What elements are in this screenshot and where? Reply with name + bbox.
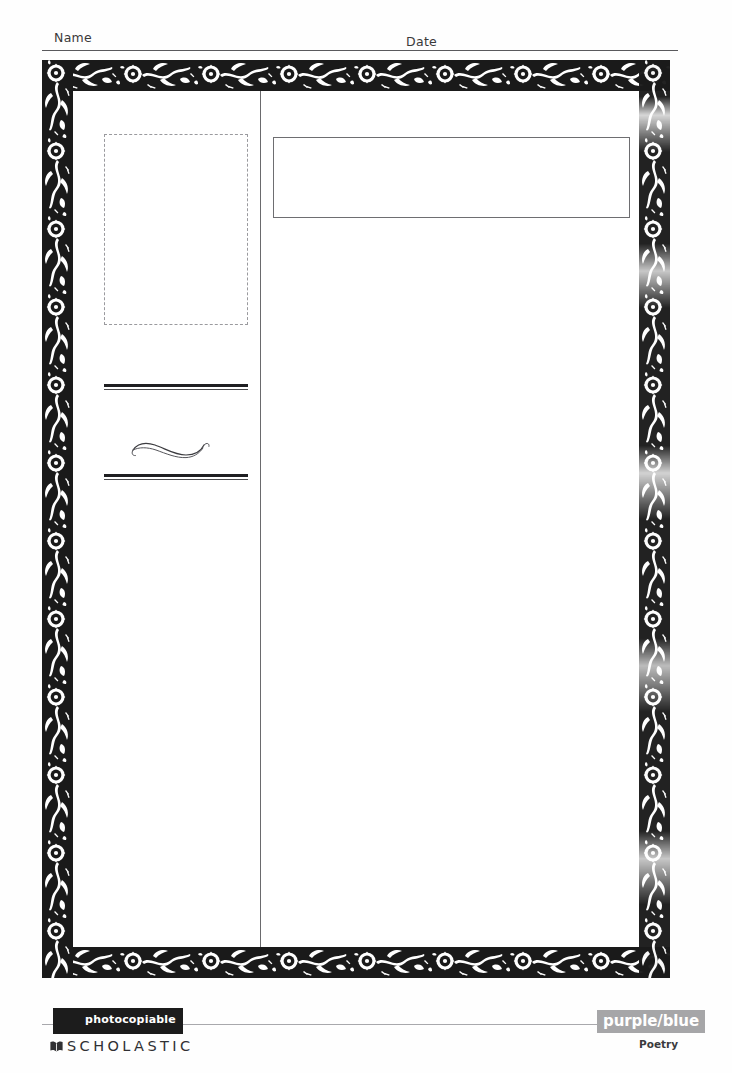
scholastic-wordmark: SCHOLASTIC <box>67 1038 193 1054</box>
writing-rule-lower[interactable] <box>104 474 248 480</box>
footer: photocopiable SCHOLASTIC purple/blue Poe… <box>0 1000 732 1073</box>
rule-thin <box>104 479 248 480</box>
worksheet-body <box>73 91 639 947</box>
frame-band-left <box>42 60 73 978</box>
frame-band-bottom <box>42 947 670 978</box>
photocopiable-badge: photocopiable <box>53 1008 183 1034</box>
picture-placeholder[interactable] <box>104 134 248 325</box>
frame-band-top <box>42 60 670 91</box>
level-badge: purple/blue <box>597 1010 705 1033</box>
worksheet-page: Name Date <box>0 0 732 1073</box>
column-divider <box>260 91 261 947</box>
date-label: Date <box>406 34 437 49</box>
header: Name Date <box>42 30 678 52</box>
open-book-icon <box>50 1041 63 1052</box>
flourish-swirl-icon <box>129 431 219 465</box>
scholastic-logo: SCHOLASTIC <box>50 1038 193 1054</box>
header-rule[interactable] <box>42 50 678 51</box>
title-field[interactable] <box>273 137 630 218</box>
rule-thin <box>104 389 248 390</box>
level-label: purple/blue <box>603 1012 699 1030</box>
photocopiable-label: photocopiable <box>85 1013 176 1026</box>
name-label: Name <box>54 30 92 45</box>
strand-label: Poetry <box>639 1038 678 1050</box>
decorative-floral-frame <box>42 60 670 978</box>
writing-rule-upper[interactable] <box>104 384 248 390</box>
frame-band-right <box>639 60 670 978</box>
